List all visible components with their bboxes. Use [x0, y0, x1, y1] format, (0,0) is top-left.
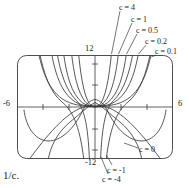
annotation-c-01: c = 0.1: [155, 47, 177, 56]
annotation-c-4: c = 4: [119, 3, 135, 12]
curve-branch-left-mid: [48, 103, 95, 162]
annotation-c-m4: c = -4: [102, 175, 121, 184]
leader-c-1: [119, 23, 133, 54]
leader-c-0: [124, 143, 138, 148]
annotation-c-0: c = 0: [139, 145, 155, 154]
annotation-c-05: c = 0.5: [136, 26, 158, 35]
leader-c-05: [127, 34, 138, 54]
figure-caption: 1/c.: [3, 169, 19, 182]
leader-c-4: [112, 11, 121, 54]
leader-c-m1: [107, 155, 113, 165]
figure-container: c = 4 c = 1 c = 0.5 c = 0.2 c = 0.1 c = …: [0, 0, 189, 188]
annotation-c-1: c = 1: [131, 15, 147, 24]
y-tick-label-12: 12: [85, 44, 94, 53]
annotation-c-02: c = 0.2: [145, 37, 167, 46]
x-tick-label-6: 6: [178, 99, 182, 108]
x-tick-label-neg-6: -6: [3, 99, 10, 108]
y-tick-label-neg-12: -12: [85, 158, 96, 167]
curve-branch-right-mid: [95, 103, 142, 162]
leader-c-02: [139, 45, 147, 54]
annotation-c-m1: c = -1: [107, 166, 126, 175]
